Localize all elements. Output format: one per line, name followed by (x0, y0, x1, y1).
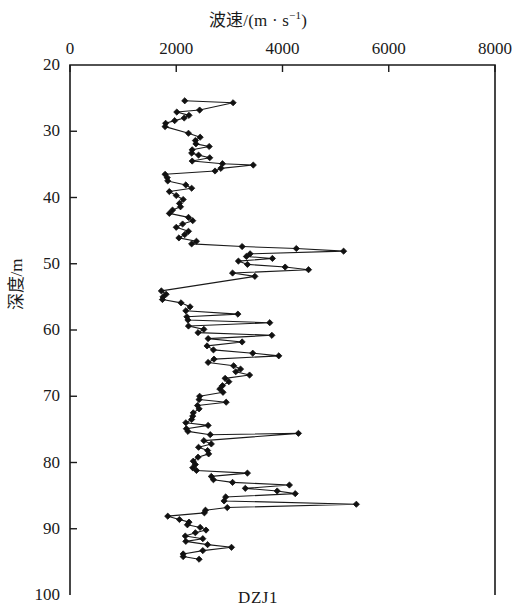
data-point-marker (207, 432, 213, 438)
data-point-marker (340, 248, 346, 254)
y-tick-label: 90 (0, 519, 60, 539)
chart-canvas (0, 0, 516, 614)
data-point-marker (205, 359, 211, 365)
data-point-marker (174, 109, 180, 115)
x-tick-label: 4000 (266, 39, 300, 59)
x-tick-label: 6000 (372, 39, 406, 59)
data-point-marker (295, 430, 301, 436)
data-point-marker (204, 343, 210, 349)
data-point-marker (205, 336, 211, 342)
data-point-marker (178, 300, 184, 306)
data-point-marker (195, 330, 201, 336)
data-point-marker (206, 143, 212, 149)
data-point-marker (244, 470, 250, 476)
y-tick-label: 50 (0, 254, 60, 274)
data-point-marker (246, 372, 252, 378)
data-point-marker (185, 130, 191, 136)
data-point-marker (180, 221, 186, 227)
data-point-marker (173, 224, 179, 230)
data-point-marker (204, 542, 210, 548)
data-point-marker (183, 538, 189, 544)
y-tick-label: 70 (0, 386, 60, 406)
data-point-marker (282, 264, 288, 270)
data-point-marker (286, 482, 292, 488)
data-point-marker (224, 504, 230, 510)
y-tick-label: 20 (0, 55, 60, 75)
data-point-marker (211, 356, 217, 362)
plot-frame (70, 65, 495, 595)
data-point-marker (223, 399, 229, 405)
data-point-marker (229, 479, 235, 485)
data-point-marker (239, 243, 245, 249)
data-point-marker (239, 339, 245, 345)
data-point-marker (166, 188, 172, 194)
data-point-marker (176, 235, 182, 241)
data-point-marker (212, 168, 218, 174)
data-point-marker (250, 350, 256, 356)
data-point-marker (208, 441, 214, 447)
data-point-marker (197, 524, 203, 530)
data-point-marker (231, 363, 237, 369)
data-point-marker (201, 438, 207, 444)
data-point-marker (228, 544, 234, 550)
data-point-marker (189, 185, 195, 191)
x-tick-label: 8000 (478, 39, 512, 59)
y-tick-label: 40 (0, 188, 60, 208)
data-point-marker (267, 320, 273, 326)
data-point-marker (185, 323, 191, 329)
data-point-marker (205, 422, 211, 428)
data-point-marker (242, 485, 248, 491)
data-point-marker (195, 444, 201, 450)
y-tick-label: 60 (0, 320, 60, 340)
data-point-marker (230, 100, 236, 106)
data-point-marker (183, 182, 189, 188)
x-tick-label: 2000 (159, 39, 193, 59)
data-point-marker (210, 347, 216, 353)
data-point-marker (235, 258, 241, 264)
data-point-marker (200, 548, 206, 554)
figure-root: 波速/(m · s−1) 深度/m 0200040006000800020304… (0, 0, 516, 614)
data-point-marker (189, 158, 195, 164)
data-point-marker (182, 98, 188, 104)
data-point-marker (269, 332, 275, 338)
data-point-marker (229, 270, 235, 276)
y-tick-label: 80 (0, 453, 60, 473)
data-point-marker (203, 527, 209, 533)
data-point-marker (353, 501, 359, 507)
data-point-marker (252, 273, 258, 279)
y-tick-label: 30 (0, 121, 60, 141)
data-point-marker (207, 155, 213, 161)
series-line (161, 101, 356, 559)
data-point-marker (192, 530, 198, 536)
data-point-marker (235, 311, 241, 317)
data-point-marker (292, 491, 298, 497)
data-point-marker (183, 420, 189, 426)
data-point-marker (200, 536, 206, 542)
data-point-marker (274, 488, 280, 494)
data-point-marker (172, 118, 178, 124)
data-point-marker (176, 516, 182, 522)
data-point-marker (201, 326, 207, 332)
data-point-marker (244, 261, 250, 267)
x-tick-label: 0 (66, 39, 75, 59)
data-point-marker (165, 513, 171, 519)
data-point-marker (250, 162, 256, 168)
data-point-marker (173, 192, 179, 198)
data-point-marker (195, 152, 201, 158)
data-point-marker (276, 353, 282, 359)
data-point-marker (197, 107, 203, 113)
data-point-marker (196, 556, 202, 562)
data-point-marker (293, 245, 299, 251)
data-point-marker (305, 267, 311, 273)
data-series-group (158, 98, 359, 563)
figure-caption: DZJ1 (0, 588, 516, 608)
axes-group (70, 65, 495, 595)
data-point-marker (269, 255, 275, 261)
